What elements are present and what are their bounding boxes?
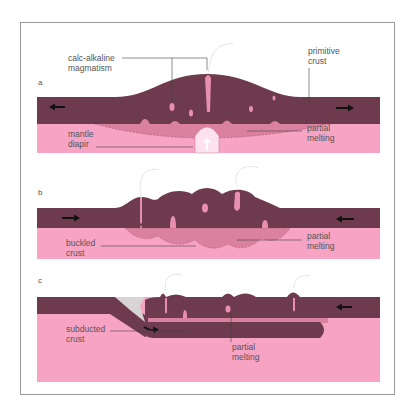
eruption-plume-icon <box>166 274 183 290</box>
eruption-plume-icon <box>140 169 160 196</box>
panel-letter-c: c <box>38 276 42 285</box>
label-crust: crust <box>66 334 85 344</box>
label-melting: melting <box>307 241 335 251</box>
panel-c: c subducted crust part <box>37 274 380 382</box>
eruption-plume-icon <box>236 166 258 186</box>
label-melting: melting <box>307 133 335 143</box>
label-mantle: mantle <box>68 129 94 139</box>
label-partial: partial <box>232 342 255 352</box>
label-crust: crust <box>66 248 85 258</box>
label-partial: partial <box>307 123 330 133</box>
panel-b: b buckled crust partial melting <box>37 166 380 259</box>
overriding-crust <box>145 293 380 319</box>
label-crust: crust <box>308 56 327 66</box>
panel-letter-a: a <box>38 78 43 87</box>
label-subducted: subducted <box>66 324 105 334</box>
eruption-plume-icon <box>208 44 233 74</box>
crustal-evolution-diagram: a <box>0 0 412 409</box>
panel-letter-b: b <box>38 188 43 197</box>
label-primitive: primitive <box>308 46 340 56</box>
label-calc-alkaline: calc-alkaline <box>68 53 115 63</box>
label-melting: melting <box>232 352 260 362</box>
eruption-plume-icon <box>294 276 310 288</box>
panel-a: a <box>37 44 380 153</box>
buckled-crust-layer <box>37 188 380 228</box>
label-buckled: buckled <box>66 238 96 248</box>
label-magmatism: magmatism <box>68 63 112 73</box>
label-partial: partial <box>307 231 330 241</box>
label-diapir: diapir <box>68 139 89 149</box>
leader-line <box>122 58 207 70</box>
